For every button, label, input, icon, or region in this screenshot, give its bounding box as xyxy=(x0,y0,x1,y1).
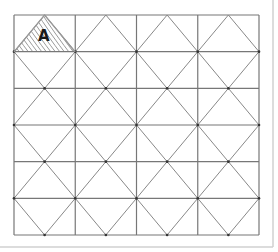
vertex-dot xyxy=(74,197,77,200)
diagonal-line xyxy=(14,198,45,235)
diagonal-line xyxy=(106,125,137,162)
vertex-dot xyxy=(258,50,261,53)
hatch-stroke xyxy=(0,10,11,58)
diagonal-line xyxy=(137,52,168,89)
diagonal-line xyxy=(106,198,137,235)
hatch-stroke xyxy=(130,10,164,58)
vertex-dot xyxy=(135,197,138,200)
diagonal-line xyxy=(198,198,229,235)
diagonal-line xyxy=(167,198,198,235)
hatched-triangle-a xyxy=(0,10,164,58)
vertex-dot xyxy=(166,234,169,237)
diagonal-line xyxy=(167,15,198,52)
diagonal-line xyxy=(106,15,137,52)
hatch-stroke xyxy=(62,10,96,58)
vertex-dot xyxy=(196,50,199,53)
diagonal-line xyxy=(228,162,259,199)
diagonal-line xyxy=(45,88,76,125)
diagonal-line xyxy=(228,52,259,89)
diagonal-line xyxy=(45,162,76,199)
diagonal-line xyxy=(167,88,198,125)
vertex-dot xyxy=(43,234,46,237)
diagonal-line xyxy=(198,88,229,125)
diagonal-line xyxy=(228,15,259,52)
vertex-dot xyxy=(105,160,108,163)
triangle-label-a: A xyxy=(38,29,50,44)
diagonal-line xyxy=(228,125,259,162)
diagonal-line xyxy=(75,15,106,52)
diagonal-line xyxy=(137,198,168,235)
diagonal-line xyxy=(75,125,106,162)
diagonal-line xyxy=(137,15,168,52)
vertex-dot xyxy=(227,87,230,90)
hatch-stroke xyxy=(89,10,123,58)
diagonal-line xyxy=(106,52,137,89)
hatch-stroke xyxy=(0,10,15,58)
diagonal-line xyxy=(14,88,45,125)
diagonal-line xyxy=(228,88,259,125)
vertex-dot xyxy=(166,160,169,163)
diagonal-line xyxy=(14,52,45,89)
diagonal-line xyxy=(14,125,45,162)
hatch-stroke xyxy=(67,10,101,58)
diagonal-line xyxy=(14,162,45,199)
hatch-stroke xyxy=(4,10,38,58)
hatch-stroke xyxy=(80,10,114,58)
hatch-stroke xyxy=(0,10,2,58)
vertex-dot xyxy=(196,197,199,200)
diagonal-line xyxy=(106,88,137,125)
diagonal-line xyxy=(167,162,198,199)
vertex-dot xyxy=(105,234,108,237)
hatch-stroke xyxy=(0,10,20,58)
hatch-stroke xyxy=(112,10,146,58)
hatch-stroke xyxy=(94,10,128,58)
vertex-dot xyxy=(135,124,138,127)
hatch-stroke xyxy=(98,10,132,58)
hatch-stroke xyxy=(125,10,159,58)
vertex-dot xyxy=(105,87,108,90)
vertex-dot xyxy=(13,197,16,200)
diagonal-line xyxy=(137,88,168,125)
diagonal-line xyxy=(75,52,106,89)
hatch-stroke xyxy=(53,10,87,58)
diagonal-line xyxy=(75,88,106,125)
vertex-dot xyxy=(196,124,199,127)
diagonal-line xyxy=(198,125,229,162)
vertex-dot xyxy=(227,160,230,163)
diagonal-line xyxy=(45,198,76,235)
vertex-dot xyxy=(43,87,46,90)
diagonal-line xyxy=(75,198,106,235)
vertex-dot xyxy=(258,197,261,200)
hatch-stroke xyxy=(0,10,6,58)
diagonal-line xyxy=(75,162,106,199)
vertex-dot xyxy=(166,87,169,90)
diagonal-line xyxy=(106,162,137,199)
diagonal-line xyxy=(167,125,198,162)
diagonal-line xyxy=(198,52,229,89)
diagonal-line xyxy=(198,15,229,52)
hatch-stroke xyxy=(49,10,83,58)
diagonal-line xyxy=(137,162,168,199)
diagonal-line xyxy=(137,125,168,162)
vertex-dot xyxy=(43,160,46,163)
diagonal-line xyxy=(228,198,259,235)
vertex-dot xyxy=(258,124,261,127)
diagonal-line xyxy=(45,52,76,89)
diagonal-line xyxy=(167,52,198,89)
vertex-dot xyxy=(227,234,230,237)
vertex-dot xyxy=(135,50,138,53)
vertex-dot xyxy=(13,124,16,127)
hatch-stroke xyxy=(0,10,24,58)
diagonal-line xyxy=(45,125,76,162)
vertex-dot xyxy=(74,124,77,127)
diagonal-line xyxy=(198,162,229,199)
